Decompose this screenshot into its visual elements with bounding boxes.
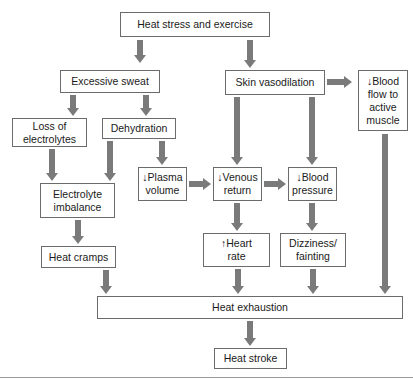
arrow-down-icon	[231, 203, 243, 231]
node-blood-flow-active-muscle: ↓Blood flow to active muscle	[358, 70, 408, 131]
node-heat-exhaustion: Heat exhaustion	[97, 296, 403, 319]
node-heart-rate: ↑Heart rate	[203, 233, 270, 267]
arrow-right-icon	[189, 178, 211, 190]
node-loss-of-electrolytes: Loss of electrolytes	[12, 118, 87, 147]
node-excessive-sweat: Excessive sweat	[60, 70, 160, 93]
arrow-right-icon	[327, 76, 352, 88]
node-blood-pressure: ↓Blood pressure	[288, 167, 337, 201]
node-dizziness-fainting: Dizziness/ fainting	[280, 233, 346, 267]
node-dehydration: Dehydration	[102, 118, 176, 139]
node-skin-vasodilation: Skin vasodilation	[225, 70, 325, 95]
arrow-down-icon	[244, 40, 256, 68]
arrow-down-icon	[100, 270, 112, 294]
bottom-divider	[0, 377, 413, 378]
arrow-down-icon	[140, 95, 152, 116]
node-heat-stress: Heat stress and exercise	[120, 12, 270, 37]
node-plasma-volume: ↓Plasma volume	[138, 167, 187, 201]
arrow-down-icon	[307, 269, 319, 294]
arrow-right-icon	[264, 178, 286, 190]
arrow-down-icon	[244, 321, 256, 346]
arrow-down-icon	[104, 141, 116, 181]
arrow-down-icon	[72, 220, 84, 244]
arrow-down-icon	[231, 97, 243, 165]
node-heat-cramps: Heat cramps	[41, 246, 116, 268]
node-electrolyte-imbalance: Electrolyte imbalance	[40, 183, 115, 218]
arrow-down-icon	[46, 149, 58, 181]
arrow-down-icon	[379, 134, 391, 294]
node-venous-return: ↓Venous return	[213, 167, 262, 201]
arrow-down-icon	[156, 141, 168, 165]
arrow-down-icon	[134, 40, 146, 63]
arrow-down-icon	[306, 97, 318, 165]
arrow-down-icon	[67, 95, 79, 116]
node-heat-stroke: Heat stroke	[214, 348, 287, 369]
arrow-down-icon	[232, 269, 244, 294]
arrow-down-icon	[306, 203, 318, 231]
